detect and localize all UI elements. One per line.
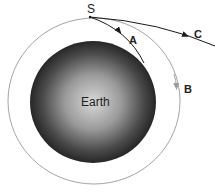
path-a-arrow-icon — [108, 22, 120, 32]
orbit-diagram: S A B C Earth — [0, 0, 215, 192]
launch-point-s — [89, 16, 91, 18]
label-a: A — [129, 34, 137, 46]
label-c: C — [194, 28, 202, 40]
label-s: S — [87, 2, 95, 16]
label-earth: Earth — [81, 95, 110, 109]
label-b: B — [184, 83, 192, 95]
